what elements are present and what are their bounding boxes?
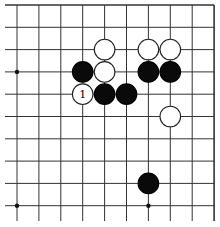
white-stone[interactable] [94, 62, 115, 83]
go-board[interactable]: 1 [0, 0, 220, 227]
white-stone-circle [160, 39, 181, 60]
black-stone[interactable] [138, 62, 159, 83]
black-stone-circle [72, 62, 93, 83]
black-stone[interactable] [138, 173, 159, 194]
star-point [146, 204, 150, 208]
star-point [15, 70, 19, 74]
black-stone-circle [116, 84, 137, 105]
white-stone-circle [138, 39, 159, 60]
black-stone-circle [94, 84, 115, 105]
black-stone[interactable] [94, 84, 115, 105]
board-grid [5, 5, 214, 221]
black-stone-circle [138, 62, 159, 83]
move-number-label: 1 [79, 88, 86, 101]
black-stone[interactable] [72, 62, 93, 83]
white-stone[interactable] [94, 39, 115, 60]
white-stone-circle [94, 62, 115, 83]
white-stone[interactable] [160, 106, 181, 127]
white-stone-circle [160, 106, 181, 127]
black-stone-circle [138, 173, 159, 194]
star-point [15, 204, 19, 208]
black-stone-circle [160, 62, 181, 83]
black-stone[interactable] [116, 84, 137, 105]
white-stone[interactable]: 1 [72, 84, 93, 105]
black-stone[interactable] [160, 62, 181, 83]
white-stone[interactable] [160, 39, 181, 60]
white-stone-circle [94, 39, 115, 60]
white-stone[interactable] [138, 39, 159, 60]
